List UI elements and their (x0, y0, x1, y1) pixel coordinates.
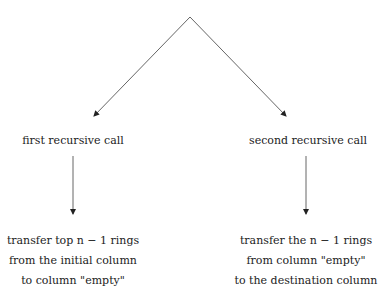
node-first-recursive-call: first recursive call (13, 131, 133, 151)
node-first-action: transfer top n − 1 rings from the initia… (3, 231, 143, 291)
first-action-line-2: from the initial column (3, 251, 143, 271)
second-action-line-1: transfer the n − 1 rings (234, 231, 378, 251)
node-second-action: transfer the n − 1 rings from column "em… (234, 231, 378, 291)
edge-root-second (190, 17, 286, 116)
second-action-line-2: from column "empty" (234, 251, 378, 271)
first-action-line-1: transfer top n − 1 rings (3, 231, 143, 251)
first-action-line-3: to column "empty" (3, 271, 143, 291)
second-action-line-3: to the destination column (234, 271, 378, 291)
edge-root-first (94, 17, 190, 116)
node-second-recursive-call: second recursive call (246, 131, 370, 151)
